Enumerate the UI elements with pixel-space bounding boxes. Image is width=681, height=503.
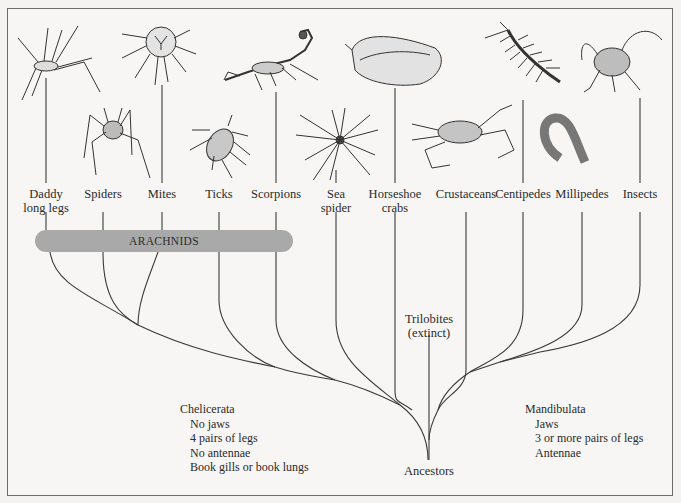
- chelicerata-trait: No jaws: [180, 417, 309, 432]
- mite-icon: [122, 27, 196, 85]
- label-trilobites: Trilobites(extinct): [405, 312, 453, 340]
- creature-illustrations: [0, 0, 681, 180]
- label-centipedes: Centipedes: [495, 187, 551, 201]
- label-scorpions: Scorpions: [251, 187, 301, 201]
- label-spiders: Spiders: [84, 187, 122, 201]
- chelicerata-trait: Book gills or book lungs: [180, 460, 309, 475]
- mandibulata-title: Mandibulata: [525, 402, 643, 417]
- millipede-icon: [544, 118, 585, 162]
- tick-icon: [190, 115, 250, 178]
- spider-icon: [84, 108, 150, 178]
- mandibulata-trait: Antennae: [525, 446, 643, 461]
- horseshoe-crab-icon: [345, 37, 441, 86]
- centipede-icon: [485, 22, 560, 82]
- label-sea-spider: Seaspider: [321, 187, 352, 215]
- label-horseshoe-crabs: Horseshoecrabs: [369, 187, 422, 215]
- label-daddy-long-legs: Daddylong legs: [23, 187, 68, 215]
- chelicerata-traits: Chelicerata No jaws 4 pairs of legs No a…: [180, 402, 309, 475]
- scorpion-icon: [224, 30, 318, 90]
- label-ticks: Ticks: [205, 187, 232, 201]
- label-millipedes: Millipedes: [555, 187, 608, 201]
- insect-icon: [582, 31, 662, 92]
- label-ancestors: Ancestors: [404, 464, 454, 478]
- daddy-long-legs-icon: [18, 26, 100, 100]
- chelicerata-trait: No antennae: [180, 446, 309, 461]
- chelicerata-trait: 4 pairs of legs: [180, 431, 309, 446]
- arachnids-label: ARACHNIDS: [129, 235, 199, 247]
- label-insects: Insects: [623, 187, 658, 201]
- mandibulata-trait: 3 or more pairs of legs: [525, 431, 643, 446]
- sea-spider-icon: [296, 108, 378, 180]
- label-mites: Mites: [148, 187, 176, 201]
- mandibulata-traits: Mandibulata Jaws 3 or more pairs of legs…: [525, 402, 643, 460]
- mandibulata-trait: Jaws: [525, 417, 643, 432]
- crustacean-icon: [412, 105, 514, 168]
- label-crustaceans: Crustaceans: [436, 187, 496, 201]
- arachnids-group-bar: ARACHNIDS: [35, 230, 293, 252]
- chelicerata-title: Chelicerata: [180, 402, 309, 417]
